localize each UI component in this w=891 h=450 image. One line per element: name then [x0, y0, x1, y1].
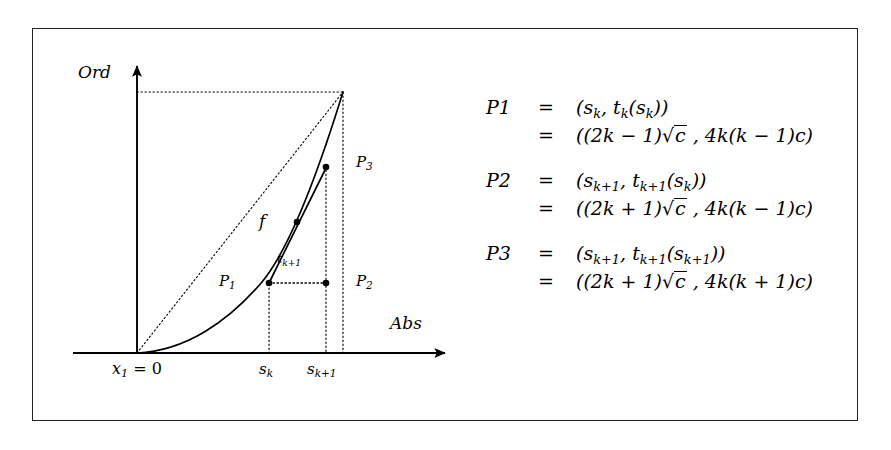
- equation-lhs: P3: [486, 242, 538, 264]
- equation-row: =((2k + 1)√c , 4k(k − 1)c): [486, 197, 856, 225]
- point-label-p3: P3: [356, 155, 373, 171]
- equation-rhs: (sk+1, tk+1(sk)): [576, 169, 706, 194]
- equation-lhs: P2: [486, 169, 538, 191]
- tick-label-origin: x1 = 0: [112, 361, 162, 379]
- axis-label-ordinate: Ord: [78, 64, 111, 81]
- equation-equals-sign: =: [538, 169, 576, 191]
- equation-row: P1=(sk, tk(sk)): [486, 96, 856, 124]
- equation-lhs: P1: [486, 96, 538, 118]
- curve-label-f: f: [259, 213, 265, 230]
- equation-group-p3: P3=(sk+1, tk+1(sk+1))=((2k + 1)√c , 4k(k…: [486, 242, 856, 298]
- equation-rhs: ((2k − 1)√c , 4k(k − 1)c): [576, 124, 813, 146]
- equation-rhs: ((2k + 1)√c , 4k(k + 1)c): [576, 270, 813, 292]
- equation-equals-sign: =: [538, 197, 576, 219]
- point-label-p2: P2: [356, 274, 373, 290]
- equation-group-p2: P2=(sk+1, tk+1(sk))=((2k + 1)√c , 4k(k −…: [486, 169, 856, 225]
- equation-rhs: (sk+1, tk+1(sk+1)): [576, 242, 726, 267]
- equation-group-p1: P1=(sk, tk(sk))=((2k − 1)√c , 4k(k − 1)c…: [486, 96, 856, 152]
- equation-equals-sign: =: [538, 96, 576, 118]
- equation-row: P2=(sk+1, tk+1(sk)): [486, 169, 856, 197]
- equation-equals-sign: =: [538, 242, 576, 264]
- equation-row: =((2k + 1)√c , 4k(k + 1)c): [486, 270, 856, 298]
- equation-row: P3=(sk+1, tk+1(sk+1)): [486, 242, 856, 270]
- point-label-p1: P1: [219, 274, 236, 290]
- axis-label-abscissa: Abs: [390, 315, 422, 332]
- figure-root: Ord Abs x1 = 0 sk sk+1 f P1 P2 P3 tk+1 P…: [0, 0, 891, 450]
- equations-panel: P1=(sk, tk(sk))=((2k − 1)√c , 4k(k − 1)c…: [486, 96, 856, 315]
- equation-rhs: ((2k + 1)√c , 4k(k − 1)c): [576, 197, 813, 219]
- tick-label-sk-plus-1: sk+1: [307, 362, 337, 378]
- equation-equals-sign: =: [538, 124, 576, 146]
- equation-row: =((2k − 1)√c , 4k(k − 1)c): [486, 124, 856, 152]
- segment-label-tk-plus-1: tk+1: [277, 252, 301, 268]
- equation-rhs: (sk, tk(sk)): [576, 96, 668, 121]
- equation-equals-sign: =: [538, 270, 576, 292]
- tick-label-sk: sk: [259, 362, 273, 378]
